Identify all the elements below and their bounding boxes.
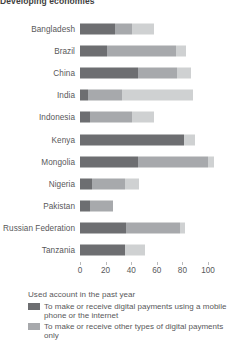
bar-segment bbox=[80, 90, 88, 101]
axis-tick bbox=[106, 262, 107, 265]
bar-row: India bbox=[0, 84, 231, 106]
category-label: Nigeria bbox=[0, 179, 75, 188]
bar-segment bbox=[125, 244, 145, 255]
bar-segment bbox=[208, 156, 214, 167]
axis-tick bbox=[131, 262, 132, 265]
category-label: Mongolia bbox=[0, 157, 75, 166]
stacked-bar bbox=[80, 24, 154, 35]
stacked-bar bbox=[80, 156, 214, 167]
category-label: Bangladesh bbox=[0, 25, 75, 34]
axis-tick-label: 40 bbox=[127, 266, 136, 275]
bar-segment bbox=[90, 112, 132, 123]
legend-title: Used account in the past year bbox=[28, 290, 231, 299]
plot-area: BangladeshBrazilChinaIndiaIndonesiaKenya… bbox=[0, 18, 231, 262]
stacked-bar bbox=[80, 112, 154, 123]
axis-tick-label: 0 bbox=[78, 266, 83, 275]
legend-item[interactable]: To make or receive other types of digita… bbox=[28, 322, 231, 341]
bar-row: China bbox=[0, 62, 231, 84]
bar-segment bbox=[80, 178, 92, 189]
axis-tick bbox=[182, 262, 183, 265]
axis-tick bbox=[80, 262, 81, 265]
stacked-bar bbox=[80, 244, 145, 255]
bar-segment bbox=[80, 68, 138, 79]
bar-segment bbox=[80, 112, 90, 123]
bar-segment bbox=[92, 178, 125, 189]
bar-segment bbox=[184, 134, 196, 145]
bar-segment bbox=[132, 24, 154, 35]
bar-row: Bangladesh bbox=[0, 18, 231, 40]
bar-segment bbox=[138, 68, 178, 79]
developing-economies-chart: Developing economies BangladeshBrazilChi… bbox=[0, 0, 231, 344]
axis-tick bbox=[208, 262, 209, 265]
bar-segment bbox=[80, 200, 90, 211]
category-label: China bbox=[0, 69, 75, 78]
bar-segment bbox=[88, 90, 123, 101]
bar-row: Nigeria bbox=[0, 173, 231, 195]
bar-segment bbox=[80, 156, 138, 167]
category-label: India bbox=[0, 91, 75, 100]
legend-items: To make or receive digital payments usin… bbox=[28, 302, 231, 341]
stacked-bar bbox=[80, 134, 195, 145]
stacked-bar bbox=[80, 200, 113, 211]
bar-row: Brazil bbox=[0, 40, 231, 62]
bar-segment bbox=[132, 112, 154, 123]
bar-row: Kenya bbox=[0, 128, 231, 150]
bar-segment bbox=[80, 46, 107, 57]
legend-item[interactable]: To make or receive digital payments usin… bbox=[28, 302, 231, 321]
axis-tick-label: 20 bbox=[101, 266, 110, 275]
bar-segment bbox=[115, 24, 133, 35]
axis-tick-label: 80 bbox=[178, 266, 187, 275]
bar-segment bbox=[107, 46, 176, 57]
bar-segment bbox=[80, 244, 125, 255]
axis-tick-label: 60 bbox=[152, 266, 161, 275]
bar-segment bbox=[180, 222, 185, 233]
bar-segment bbox=[138, 156, 208, 167]
bar-segment bbox=[90, 200, 113, 211]
legend-swatch bbox=[28, 323, 40, 330]
category-label: Kenya bbox=[0, 135, 75, 144]
bar-segment bbox=[177, 68, 191, 79]
bar-row: Mongolia bbox=[0, 151, 231, 173]
bar-segment bbox=[125, 178, 139, 189]
axis-tick bbox=[157, 262, 158, 265]
category-label: Brazil bbox=[0, 47, 75, 56]
bar-segment bbox=[122, 90, 192, 101]
bar-row: Pakistan bbox=[0, 195, 231, 217]
legend-label: To make or receive other types of digita… bbox=[44, 322, 231, 341]
legend-label: To make or receive digital payments usin… bbox=[44, 302, 231, 321]
bar-row: Indonesia bbox=[0, 106, 231, 128]
chart-legend: Used account in the past year To make or… bbox=[28, 290, 231, 342]
axis-tick-label: 100 bbox=[201, 266, 215, 275]
bar-segment bbox=[80, 134, 184, 145]
stacked-bar bbox=[80, 46, 186, 57]
category-label: Indonesia bbox=[0, 113, 75, 122]
category-label: Pakistan bbox=[0, 201, 75, 210]
bar-segment bbox=[80, 222, 126, 233]
bar-segment bbox=[176, 46, 186, 57]
bar-row: Russian Federation bbox=[0, 217, 231, 239]
bar-segment bbox=[80, 24, 115, 35]
category-label: Russian Federation bbox=[0, 223, 75, 232]
x-axis: 020406080100 bbox=[0, 262, 231, 282]
stacked-bar bbox=[80, 222, 185, 233]
chart-title: Developing economies bbox=[0, 0, 95, 6]
legend-swatch bbox=[28, 303, 40, 310]
bar-segment bbox=[126, 222, 180, 233]
stacked-bar bbox=[80, 178, 139, 189]
category-label: Tanzania bbox=[0, 245, 75, 254]
stacked-bar bbox=[80, 90, 193, 101]
bar-row: Tanzania bbox=[0, 239, 231, 261]
stacked-bar bbox=[80, 68, 191, 79]
